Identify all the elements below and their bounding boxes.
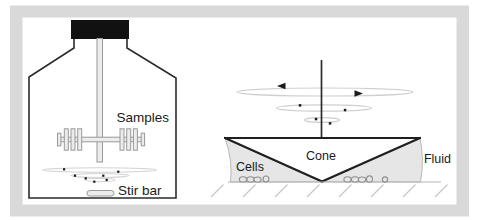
stir-swirl-ellipse — [85, 178, 115, 181]
stirred-flask-diagram: Samples Stir bar — [29, 20, 176, 198]
cell — [344, 177, 351, 182]
hatch-mark — [211, 185, 224, 198]
flask-cap — [71, 20, 129, 39]
cone-plate-diagram: Cone Cells Fluid — [211, 60, 451, 197]
crossbar-endcap-left — [58, 133, 61, 146]
cell — [254, 177, 261, 182]
fluid-label: Fluid — [424, 152, 451, 166]
particle-dot — [93, 181, 95, 183]
cell — [382, 177, 387, 182]
cell — [358, 177, 365, 182]
sample-slide — [71, 129, 75, 150]
hatch-mark — [435, 185, 448, 198]
particle-dot — [106, 179, 108, 181]
particle-dot — [102, 175, 104, 177]
particle-dot — [299, 104, 302, 107]
samples-label: Samples — [117, 110, 170, 125]
stir-swirl-ellipse — [71, 174, 129, 178]
sample-slide — [133, 129, 137, 150]
hatch-mark — [243, 185, 256, 198]
stirrer-rod — [97, 39, 103, 163]
crossbar-endcap-right — [141, 133, 144, 146]
figure-canvas: Samples Stir bar — [0, 0, 479, 220]
particle-dot — [63, 168, 65, 170]
cells-label: Cells — [236, 160, 264, 174]
particle-dot — [329, 122, 332, 125]
stir-swirl-ellipse — [43, 168, 157, 172]
diagram-svg: Samples Stir bar — [0, 0, 479, 220]
particle-dot — [315, 118, 318, 121]
cell — [239, 177, 246, 182]
hatch-mark — [307, 185, 320, 198]
cone-label: Cone — [306, 149, 336, 163]
stir-bar — [87, 191, 114, 197]
stir-bar-label: Stir bar — [118, 183, 162, 198]
hatch-mark — [275, 185, 288, 198]
sample-slide — [64, 129, 68, 150]
cell — [247, 177, 254, 182]
hatch-mark — [371, 185, 384, 198]
sample-slide — [120, 129, 124, 150]
hatch-mark — [403, 185, 416, 198]
particle-dot — [74, 175, 76, 177]
sample-slide — [127, 129, 131, 150]
particle-dot — [85, 177, 87, 179]
rotation-ellipse — [277, 105, 372, 111]
cell — [263, 176, 269, 182]
rotation-ellipse — [237, 88, 413, 96]
cell — [351, 177, 358, 182]
particle-dot — [344, 109, 347, 112]
hatch-mark — [339, 185, 352, 198]
cell — [367, 176, 373, 182]
sample-slide — [78, 129, 82, 150]
particle-dot — [117, 171, 119, 173]
